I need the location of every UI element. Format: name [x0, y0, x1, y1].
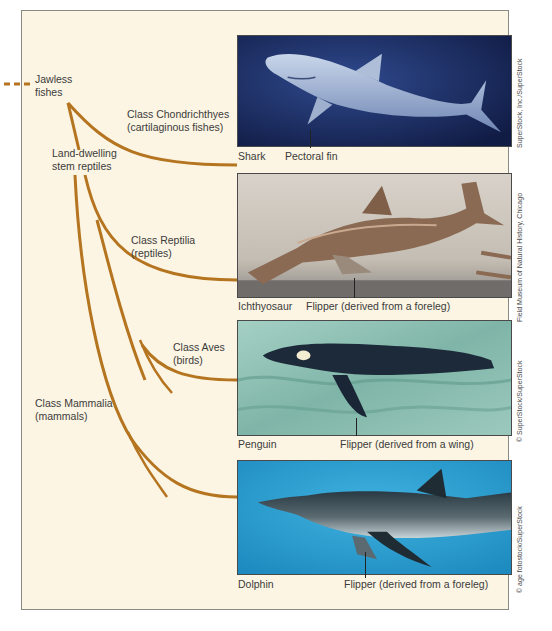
credit-ichthyosaur: Field Museum of Natural History, Chicago [516, 193, 523, 322]
caption-ichthyosaur-flipper: Flipper (derived from a foreleg) [306, 300, 450, 313]
credit-penguin: © SuperStock/SuperStock [516, 361, 523, 442]
label-stem-reptiles: Land-dwelling stem reptiles [52, 147, 117, 173]
ichthyosaur-photo [237, 173, 512, 298]
caption-pectoral-fin: Pectoral fin [285, 150, 338, 163]
pectoral-fin-pointer [310, 130, 311, 148]
credit-shark: SuperStock, Inc./SuperStock [516, 59, 523, 149]
penguin-illustration [238, 321, 511, 435]
penguin-flipper-pointer [356, 418, 357, 436]
shark-illustration [238, 36, 511, 146]
caption-ichthyosaur: Ichthyosaur [238, 300, 292, 313]
penguin-photo [237, 320, 512, 436]
caption-penguin: Penguin [238, 438, 277, 451]
label-class-reptilia: Class Reptilia (reptiles) [131, 234, 195, 260]
caption-dolphin: Dolphin [238, 578, 274, 591]
dolphin-flipper-pointer [365, 552, 366, 578]
caption-shark: Shark [238, 150, 265, 163]
dolphin-photo [237, 460, 512, 575]
credit-dolphin: © age fotostock/SuperStock [516, 506, 523, 593]
label-jawless-fishes: Jawless fishes [35, 73, 72, 99]
label-class-aves: Class Aves (birds) [173, 341, 225, 367]
caption-dolphin-flipper: Flipper (derived from a foreleg) [344, 578, 488, 591]
ichthyosaur-illustration [238, 174, 511, 297]
ichthyosaur-flipper-pointer [354, 278, 355, 298]
caption-penguin-flipper: Flipper (derived from a wing) [340, 438, 474, 451]
shark-photo [237, 35, 512, 147]
label-class-mammalia: Class Mammalia (mammals) [35, 397, 113, 423]
label-class-chondrichthyes: Class Chondrichthyes (cartilaginous fish… [127, 108, 229, 134]
dolphin-illustration [238, 461, 511, 574]
